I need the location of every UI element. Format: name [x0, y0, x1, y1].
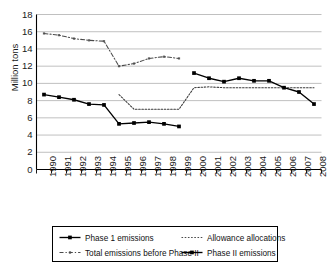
legend-key-icon — [59, 233, 81, 242]
gridlines — [37, 15, 322, 153]
x-axis-tick-label: 1998 — [168, 155, 178, 176]
series-marker — [222, 80, 226, 84]
series-marker — [102, 103, 106, 107]
series-marker — [237, 76, 241, 80]
x-axis-tick-label: 1991 — [63, 155, 73, 176]
y-axis-tick-label: 6 — [11, 113, 33, 123]
series-marker — [178, 57, 180, 59]
series-marker — [87, 102, 91, 106]
x-axis-tick-label: 1994 — [108, 155, 118, 176]
y-axis-tick-label: 18 — [11, 10, 33, 20]
x-axis-tick-label: 2002 — [228, 155, 238, 176]
chart-legend: Phase 1 emissionsAllowance allocationsTo… — [52, 226, 278, 262]
y-axis-tick-label: 14 — [11, 44, 33, 54]
legend-label: Allowance allocations — [207, 234, 285, 243]
series-marker — [58, 34, 60, 36]
series-line — [44, 33, 179, 66]
y-axis-tick-label: 2 — [11, 148, 33, 158]
x-axis-tick-label: 2003 — [243, 155, 253, 176]
y-axis-tick-label: 8 — [11, 96, 33, 106]
series-marker — [282, 86, 286, 90]
x-axis-tick-label: 1993 — [93, 155, 103, 176]
x-axis-tick-label: 1992 — [78, 155, 88, 176]
y-axis-tick-label: 12 — [11, 61, 33, 71]
legend-label: Phase 1 emissions — [85, 234, 154, 243]
series-marker — [252, 79, 256, 83]
x-axis-tick-label: 2006 — [288, 155, 298, 176]
y-axis-tick-label: 4 — [11, 130, 33, 140]
axis-lines — [37, 15, 322, 170]
x-axis-tick-label: 1990 — [48, 155, 58, 176]
series-marker — [72, 98, 76, 102]
series-marker — [73, 38, 75, 40]
legend-key-icon — [181, 233, 203, 242]
series-marker — [103, 40, 105, 42]
x-axis-tick-label: 1995 — [123, 155, 133, 176]
x-axis-tick-label: 2007 — [303, 155, 313, 176]
series-marker — [267, 79, 271, 83]
x-axis-tick-label: 2008 — [318, 155, 328, 176]
series-marker — [43, 32, 45, 34]
x-axis-tick-label: 2004 — [258, 155, 268, 176]
legend-label: Phase II emissions — [207, 249, 276, 258]
x-axis-tick-label: 2005 — [273, 155, 283, 176]
series-line — [194, 73, 314, 104]
x-axis-tick-label: 2000 — [198, 155, 208, 176]
series-marker — [57, 95, 61, 99]
series-marker — [163, 56, 165, 58]
series-marker — [162, 122, 166, 126]
series-marker — [117, 122, 121, 126]
series-marker — [118, 65, 120, 67]
series-marker — [192, 71, 196, 75]
series-marker — [42, 93, 46, 97]
series-marker — [148, 57, 150, 59]
y-axis-tick-label: 16 — [11, 27, 33, 37]
x-axis-tick-label: 1999 — [183, 155, 193, 176]
y-axis-tick-label: 0 — [11, 165, 33, 175]
series-marker — [133, 62, 135, 64]
series-marker — [312, 102, 316, 106]
x-axis-tick-label: 2001 — [213, 155, 223, 176]
x-axis-tick-label: 1997 — [153, 155, 163, 176]
data-series-layer — [42, 32, 316, 128]
series-marker — [147, 120, 151, 124]
legend-key-icon — [59, 248, 81, 257]
series-marker — [132, 121, 136, 125]
series-marker — [207, 76, 211, 80]
series-marker — [297, 90, 301, 94]
series-marker — [88, 39, 90, 41]
series-line — [44, 95, 179, 127]
series-marker — [177, 125, 181, 129]
series-line — [119, 87, 314, 109]
x-axis-tick-label: 1996 — [138, 155, 148, 176]
y-axis-tick-label: 10 — [11, 79, 33, 89]
legend-key-icon — [181, 248, 203, 257]
